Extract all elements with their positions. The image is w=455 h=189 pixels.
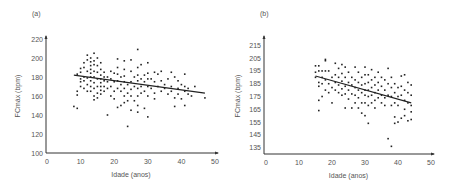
- data-point: [137, 95, 139, 97]
- scatter-charts: (a)10012014016018020022001020304050Idade…: [0, 0, 455, 189]
- data-point: [103, 80, 105, 82]
- data-point: [331, 77, 333, 79]
- data-point: [87, 90, 89, 92]
- y-tick-label: 155: [249, 119, 261, 126]
- data-point: [354, 66, 356, 68]
- data-point: [401, 94, 403, 96]
- data-point: [80, 71, 82, 73]
- data-point: [397, 121, 399, 123]
- data-point: [137, 67, 139, 69]
- data-point: [341, 88, 343, 90]
- data-point: [103, 76, 105, 78]
- data-point: [90, 72, 92, 74]
- data-point: [107, 76, 109, 78]
- data-point: [117, 58, 119, 60]
- data-point: [397, 105, 399, 107]
- data-point: [341, 94, 343, 96]
- data-point: [344, 77, 346, 79]
- data-point: [318, 82, 320, 84]
- data-point: [160, 80, 162, 82]
- data-point: [348, 89, 350, 91]
- data-point: [318, 70, 320, 72]
- data-point: [351, 107, 353, 109]
- data-point: [374, 84, 376, 86]
- data-point: [130, 81, 132, 83]
- y-tick-label: 120: [31, 131, 43, 138]
- x-tick-label: 40: [394, 159, 402, 166]
- data-point: [167, 78, 169, 80]
- data-point: [80, 86, 82, 88]
- y-tick-label: 180: [31, 74, 43, 81]
- x-axis-label: Idade (anos): [329, 172, 368, 180]
- data-point: [358, 107, 360, 109]
- data-point: [100, 93, 102, 95]
- data-point: [120, 84, 122, 86]
- chart-panel-a: (a)10012014016018020022001020304050Idade…: [14, 10, 219, 179]
- data-point: [90, 86, 92, 88]
- data-point: [160, 71, 162, 73]
- data-point: [130, 109, 132, 111]
- data-point: [157, 73, 159, 75]
- data-point: [110, 86, 112, 88]
- data-point: [407, 82, 409, 84]
- data-point: [83, 80, 85, 82]
- data-point: [107, 88, 109, 90]
- data-point: [164, 84, 166, 86]
- data-point: [191, 95, 193, 97]
- data-point: [397, 96, 399, 98]
- x-tick-label: 10: [295, 159, 303, 166]
- data-point: [181, 98, 183, 100]
- y-tick-label: 195: [249, 67, 261, 74]
- x-tick-label: 0: [45, 158, 49, 165]
- data-point: [123, 69, 125, 71]
- data-point: [150, 88, 152, 90]
- data-point: [321, 83, 323, 85]
- data-point: [407, 92, 409, 94]
- data-point: [144, 81, 146, 83]
- data-point: [387, 83, 389, 85]
- data-point: [391, 146, 393, 148]
- data-point: [410, 94, 412, 96]
- data-point: [348, 71, 350, 73]
- y-tick-label: 140: [31, 112, 43, 119]
- x-tick-label: 50: [211, 158, 219, 165]
- data-point: [97, 86, 99, 88]
- data-point: [110, 78, 112, 80]
- data-point: [147, 78, 149, 80]
- data-point: [90, 80, 92, 82]
- data-point: [321, 96, 323, 98]
- data-point: [123, 60, 125, 62]
- data-point: [177, 93, 179, 95]
- data-point: [368, 105, 370, 107]
- data-point: [154, 92, 156, 94]
- data-point: [154, 81, 156, 83]
- data-point: [338, 68, 340, 70]
- data-point: [113, 98, 115, 100]
- data-points: [73, 49, 206, 128]
- data-point: [338, 84, 340, 86]
- data-point: [351, 93, 353, 95]
- data-point: [377, 71, 379, 73]
- data-point: [174, 106, 176, 108]
- data-point: [76, 108, 78, 110]
- data-point: [147, 72, 149, 74]
- data-point: [117, 73, 119, 75]
- data-point: [100, 74, 102, 76]
- data-point: [371, 102, 373, 104]
- data-point: [110, 71, 112, 73]
- data-point: [335, 62, 337, 64]
- data-point: [354, 102, 356, 104]
- data-point: [344, 66, 346, 68]
- data-point: [97, 97, 99, 99]
- data-point: [100, 86, 102, 88]
- data-point: [374, 100, 376, 102]
- data-point: [100, 82, 102, 84]
- data-point: [338, 92, 340, 94]
- data-point: [134, 76, 136, 78]
- data-point: [93, 71, 95, 73]
- data-point: [154, 98, 156, 100]
- x-tick-label: 20: [328, 159, 336, 166]
- data-point: [123, 95, 125, 97]
- data-point: [90, 61, 92, 63]
- data-point: [404, 89, 406, 91]
